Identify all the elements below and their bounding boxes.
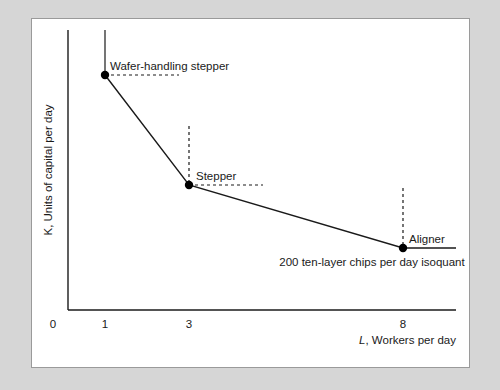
label-stepper: Stepper bbox=[196, 170, 236, 182]
x-tick-label-8: 8 bbox=[400, 318, 406, 330]
y-axis-title: K, Units of capital per day bbox=[42, 104, 54, 235]
isoquant-curve bbox=[105, 75, 456, 248]
y-axis-title-rest: , Units of capital per day bbox=[42, 104, 54, 228]
label-wafer-handling-stepper: Wafer-handling stepper bbox=[110, 60, 229, 72]
data-point-stepper bbox=[185, 181, 193, 189]
x-axis-title-rest: , Workers per day bbox=[365, 334, 456, 346]
isoquant-chart: Wafer-handling stepper Stepper Aligner 2… bbox=[32, 19, 469, 367]
isoquant-caption: 200 ten-layer chips per day isoquant bbox=[279, 256, 465, 268]
x-tick-label-1: 1 bbox=[102, 318, 108, 330]
x-tick-label-3: 3 bbox=[186, 318, 192, 330]
data-point-wafer-handling-stepper bbox=[101, 71, 109, 79]
data-point-aligner bbox=[399, 244, 407, 252]
x-axis-title: L, Workers per day bbox=[359, 334, 456, 346]
figure-panel: Wafer-handling stepper Stepper Aligner 2… bbox=[31, 18, 470, 368]
x-tick-label-0: 0 bbox=[50, 318, 56, 330]
label-aligner: Aligner bbox=[409, 233, 445, 245]
